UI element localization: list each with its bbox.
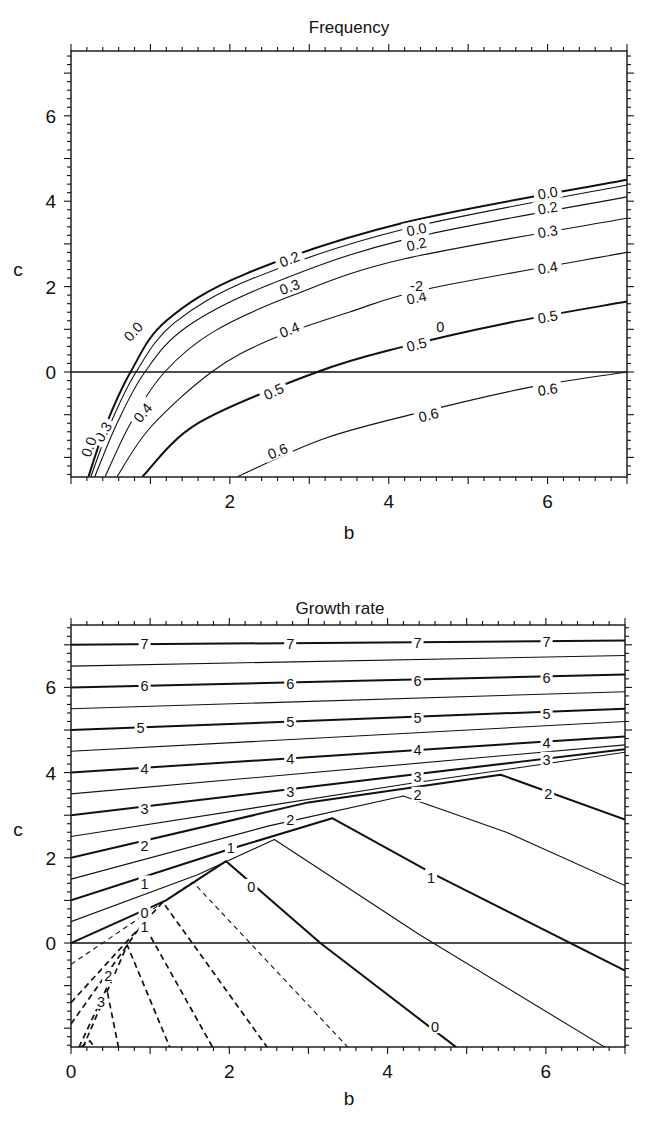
contours: [71, 641, 625, 1048]
svg-text:4: 4: [414, 742, 422, 758]
svg-text:4: 4: [286, 751, 294, 767]
svg-text:7: 7: [286, 636, 294, 652]
svg-text:3: 3: [141, 801, 149, 817]
svg-text:1: 1: [227, 840, 235, 856]
svg-text:6: 6: [543, 670, 551, 686]
svg-text:0.6: 0.6: [537, 380, 559, 399]
svg-text:0.2: 0.2: [536, 198, 559, 217]
svg-text:2: 2: [104, 968, 112, 984]
contour-label: 2: [102, 967, 114, 984]
svg-text:-2: -2: [410, 278, 423, 294]
contour-label: 0.6: [262, 438, 294, 464]
contour-label: 2: [412, 787, 424, 804]
contour-label: 2: [542, 786, 554, 803]
svg-text:6: 6: [414, 673, 422, 689]
svg-text:5: 5: [286, 714, 294, 730]
svg-text:5: 5: [543, 706, 551, 722]
contour-label: 1: [139, 875, 151, 892]
contour-label: 0.4: [532, 257, 562, 278]
contour-label: 6: [284, 675, 296, 692]
x-tick-label: 2: [224, 1061, 235, 1082]
contour-label: 5: [412, 709, 424, 726]
contour-label: 0: [429, 1018, 441, 1035]
svg-text:6: 6: [286, 676, 294, 692]
y-tick-label: 2: [45, 277, 56, 298]
svg-text:4: 4: [141, 761, 149, 777]
contour-label: 4: [412, 741, 424, 758]
svg-text:2: 2: [414, 787, 422, 803]
contour-label: 7: [139, 636, 151, 653]
contour-label: 4: [284, 751, 296, 768]
y-tick-label: 6: [45, 677, 56, 698]
growth-rate-title: Growth rate: [296, 599, 385, 618]
x-tick-label: 0: [66, 1061, 77, 1082]
svg-text:0: 0: [436, 319, 444, 335]
contour-line: [71, 656, 625, 667]
contour-label: 0.6: [413, 404, 444, 427]
svg-text:7: 7: [543, 634, 551, 650]
contour-label: 3: [541, 752, 553, 769]
svg-text:0.6: 0.6: [417, 405, 440, 425]
svg-text:0: 0: [247, 879, 255, 895]
contour-line: [71, 818, 625, 971]
figure: Frequency 24602460.00.00.00.20.20.20.30.…: [0, 0, 655, 1139]
y-tick-label: 0: [45, 933, 56, 954]
svg-text:0.5: 0.5: [536, 307, 559, 326]
x-tick-label: 6: [541, 1061, 552, 1082]
svg-text:0.2: 0.2: [405, 234, 428, 254]
frequency-y-axis-label: c: [13, 259, 23, 280]
contour-label: 2: [139, 838, 151, 855]
svg-text:3: 3: [414, 769, 422, 785]
y-tick-label: 2: [45, 848, 56, 869]
contour-label: 0.5: [532, 306, 562, 327]
y-tick-label: 6: [45, 106, 56, 127]
contour-label: 0: [434, 318, 446, 335]
contour-labels: 0.00.00.00.20.20.20.30.30.40.40.40.40.30…: [76, 182, 563, 464]
svg-text:4: 4: [543, 735, 551, 751]
growth-rate-plot-area: 0246024677776666555544443333222211100012…: [45, 618, 632, 1082]
svg-text:2: 2: [286, 812, 294, 828]
contour-label: 1: [225, 839, 237, 856]
y-tick-label: 4: [45, 191, 56, 212]
contour-label: 0.6: [533, 379, 563, 399]
contour-label: 1: [139, 919, 151, 936]
contour-line: [238, 372, 627, 477]
contour-label: 7: [284, 635, 296, 652]
svg-text:5: 5: [414, 710, 422, 726]
x-tick-label: 2: [225, 491, 236, 512]
contour-label: 0.5: [257, 378, 289, 405]
contour-label: 5: [284, 714, 296, 731]
contour-label: 7: [541, 633, 553, 650]
svg-text:7: 7: [141, 636, 149, 652]
contour-label: 0.3: [532, 221, 562, 242]
contour-label: 6: [412, 672, 424, 689]
contour-label: 5: [541, 705, 553, 722]
contour-label: 0: [245, 879, 257, 896]
contour-line: [71, 775, 625, 858]
svg-text:0.3: 0.3: [536, 222, 559, 241]
contour-label: 6: [541, 669, 553, 686]
contour-label: 0.4: [273, 317, 305, 343]
contour-label: 7: [412, 634, 424, 651]
contour-line: [105, 218, 627, 476]
growth-rate-y-axis-label: c: [13, 819, 23, 840]
contour-label: 0.5: [401, 333, 432, 356]
y-tick-label: 0: [45, 362, 56, 383]
contour-label: 0.3: [274, 274, 306, 299]
svg-text:1: 1: [141, 876, 149, 892]
contour-label: 3: [95, 994, 107, 1011]
frequency-plot-area: 24602460.00.00.00.20.20.20.30.30.40.40.4…: [45, 44, 634, 512]
contour-label: 6: [139, 678, 151, 695]
svg-text:1: 1: [427, 870, 435, 886]
svg-text:7: 7: [414, 635, 422, 651]
contour-label: 3: [139, 800, 151, 817]
growth-rate-x-axis-label: b: [344, 1088, 355, 1109]
contour-line: [71, 902, 267, 1047]
contour-line: [117, 252, 627, 476]
svg-text:3: 3: [286, 784, 294, 800]
contour-label: 4: [541, 735, 553, 752]
x-tick-label: 6: [542, 491, 553, 512]
y-tick-label: 4: [45, 763, 56, 784]
svg-text:6: 6: [141, 678, 149, 694]
contour-label: 0.0: [118, 316, 149, 348]
